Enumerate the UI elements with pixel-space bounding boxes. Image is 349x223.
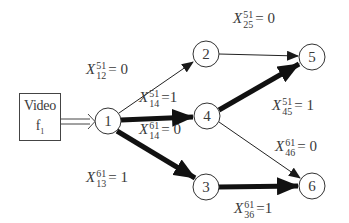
edge-label-14-61: X6114= 0 [139,121,181,140]
node-3-label: 3 [193,174,219,200]
node-2-label: 2 [193,41,219,67]
edge-label-25: X5125= 0 [233,10,275,29]
edge-label-12: X5112= 0 [86,61,128,80]
node-6-label: 6 [299,173,325,199]
sub: 14 [149,99,159,109]
sub: 12 [96,71,106,81]
eq: = [297,138,305,154]
value: 0 [267,10,275,26]
edge-label-13: X6113= 1 [86,169,128,188]
edge-label-46: X6146= 0 [275,138,317,157]
var: X [272,97,281,113]
sub: 36 [244,210,254,220]
edge-label-45: X5145= 1 [272,97,314,116]
value: 1 [265,200,273,216]
var: X [86,61,95,77]
node-5-label: 5 [299,44,325,70]
value: 1 [170,89,178,105]
value: 0 [173,121,181,137]
value: 1 [306,97,314,113]
var: X [139,121,148,137]
eq: = [256,200,264,216]
var: X [139,89,148,105]
video-title: Video [20,98,60,115]
value: 1 [120,169,128,185]
sub: 13 [96,179,106,189]
sub: 14 [149,131,159,141]
value: 0 [120,61,128,77]
edge-label-14-51: X5114=1 [139,89,177,108]
var: X [86,169,95,185]
sub: 45 [282,107,292,117]
video-subtitle-sub: 1 [40,127,44,136]
eq: = [161,89,169,105]
eq: = [108,61,116,77]
var: X [234,200,243,216]
eq: = [108,169,116,185]
sub: 46 [285,148,295,158]
video-source-box: Video f1 [19,93,61,141]
eq: = [294,97,302,113]
edge-3-6 [219,186,298,187]
node-4-label: 4 [194,103,220,129]
eq: = [161,121,169,137]
var: X [275,138,284,154]
edge-2-5 [219,54,298,56]
var: X [233,10,242,26]
video-subtitle: f1 [20,118,60,136]
sub: 25 [243,20,253,30]
node-1-label: 1 [95,108,121,134]
source-arrow [61,114,95,129]
edge-label-36: X6136=1 [234,200,272,219]
value: 0 [309,138,317,154]
eq: = [255,10,263,26]
